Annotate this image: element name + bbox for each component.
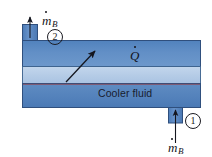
state-point-2-label: 2 [53,31,58,42]
state-point-2-badge: 2 [47,29,63,45]
heat-transfer-dot-icon [134,46,136,48]
duct-graphic [0,0,212,157]
heat-transfer-symbol: Q [130,48,139,63]
state-point-1-badge: 1 [185,113,201,129]
heat-exchanger-diagram: mB 2 1 mB Q Cooler fluid [0,0,212,157]
inlet-mass-flow-subscript: B [177,146,183,156]
inlet-mass-flow-label: mB [168,141,183,156]
outlet-mass-flow-label: mB [42,14,57,29]
outlet-mass-flow-dot-icon [45,11,47,13]
cooler-fluid-label: Cooler fluid [98,88,152,99]
outlet-mass-flow-symbol: m [42,13,51,28]
state-point-1-label: 1 [191,115,196,126]
outlet-mass-flow-subscript: B [51,19,57,29]
heat-transfer-label: Q [130,49,139,62]
inlet-mass-flow-dot-icon [171,138,173,140]
inlet-mass-flow-symbol: m [168,140,177,155]
